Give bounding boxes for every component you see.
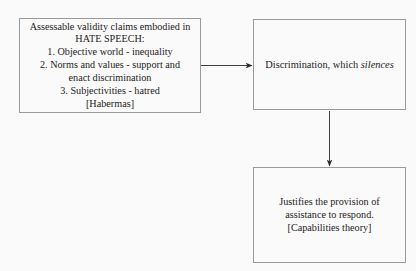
node-discrimination-emphasis: silences (361, 59, 394, 70)
node-hate-speech-line-2: HATE SPEECH: (75, 33, 144, 46)
node-discrimination-text: Discrimination, which silences (265, 58, 393, 71)
node-justifies-line-1: Justifies the provision of (279, 196, 379, 209)
node-discrimination: Discrimination, which silences (253, 19, 406, 110)
node-justifies-line-3: [Capabilities theory] (287, 222, 371, 235)
flowchart-diagram: Assessable validity claims embodied in H… (0, 0, 416, 271)
node-justifies: Justifies the provision of assistance to… (253, 167, 406, 263)
node-hate-speech: Assessable validity claims embodied in H… (19, 18, 201, 113)
node-hate-speech-line-3: 1. Objective world - inequality (47, 46, 172, 59)
node-hate-speech-line-4: 2. Norms and values - support and (40, 59, 180, 72)
node-justifies-line-2: assistance to respond. (285, 209, 374, 222)
node-hate-speech-line-5: enact discrimination (69, 72, 152, 85)
node-hate-speech-line-7: [Habermas] (86, 98, 134, 111)
node-hate-speech-line-6: 3. Subjectivities - hatred (60, 85, 160, 98)
node-hate-speech-line-1: Assessable validity claims embodied in (30, 21, 191, 34)
node-discrimination-lead: Discrimination, which (265, 59, 361, 70)
